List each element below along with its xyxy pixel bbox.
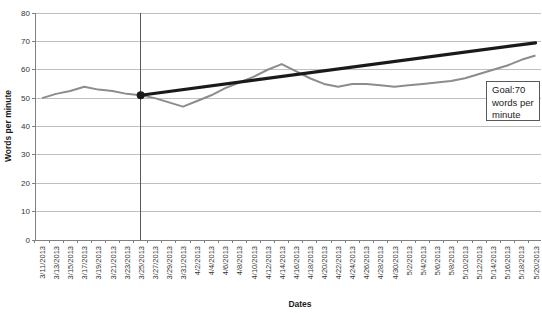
x-axis-tick-label: 3/27/2013 [151, 246, 160, 279]
x-axis-tick-label: 4/22/2013 [334, 246, 343, 279]
y-axis-tick-label: 10 [21, 207, 30, 216]
wpm-line-chart: 010203040506070803/11/20133/13/20133/15/… [0, 0, 542, 313]
x-axis-tick-label: 4/26/2013 [362, 246, 371, 279]
x-axis-tick-label: 3/13/2013 [52, 246, 61, 279]
x-axis-tick-label: 5/6/2013 [433, 246, 442, 275]
y-axis-tick-label: 60 [21, 65, 30, 74]
x-axis-tick-label: 5/2/2013 [405, 246, 414, 275]
x-axis-tick-label: 4/12/2013 [264, 246, 273, 279]
x-axis-tick-label: 4/20/2013 [320, 246, 329, 279]
x-axis-tick-label: 3/25/2013 [137, 246, 146, 279]
x-axis-tick-label: 3/17/2013 [80, 246, 89, 279]
x-axis-tick-label: 4/18/2013 [306, 246, 315, 279]
x-axis-tick-label: 4/14/2013 [278, 246, 287, 279]
y-axis-tick-label: 30 [21, 150, 30, 159]
plot-area: 010203040506070803/11/20133/13/20133/15/… [21, 9, 541, 280]
x-axis-tick-label: 3/19/2013 [94, 246, 103, 279]
x-axis-tick-label: 5/10/2013 [461, 246, 470, 279]
y-axis-tick-label: 50 [21, 94, 30, 103]
y-axis-tick-label: 80 [21, 9, 30, 18]
x-axis-title: Dates [288, 299, 311, 309]
x-axis-tick-label: 5/14/2013 [489, 246, 498, 279]
x-axis-tick-label: 4/4/2013 [207, 246, 216, 275]
x-axis-tick-label: 4/28/2013 [376, 246, 385, 279]
x-axis-tick-label: 4/2/2013 [193, 246, 202, 275]
x-axis-tick-label: 3/15/2013 [66, 246, 75, 279]
goal-annotation-line: Goal:70 [492, 84, 539, 97]
x-axis-tick-label: 5/8/2013 [447, 246, 456, 275]
x-axis-tick-label: 5/12/2013 [475, 246, 484, 279]
y-axis-tick-label: 70 [21, 37, 30, 46]
x-axis-tick-label: 4/30/2013 [391, 246, 400, 279]
y-axis-tick-label: 0 [26, 236, 31, 245]
chart-container: 010203040506070803/11/20133/13/20133/15/… [0, 0, 542, 313]
x-axis-tick-label: 4/8/2013 [235, 246, 244, 275]
x-axis-tick-label: 4/16/2013 [292, 246, 301, 279]
x-axis-tick-label: 3/21/2013 [109, 246, 118, 279]
x-axis-tick-label: 3/11/2013 [38, 246, 47, 279]
x-axis-tick-label: 4/24/2013 [348, 246, 357, 279]
x-axis-tick-label: 3/29/2013 [165, 246, 174, 279]
x-axis-tick-label: 4/10/2013 [250, 246, 259, 279]
x-axis-tick-label: 3/23/2013 [123, 246, 132, 279]
wpm-data-line [42, 56, 536, 107]
y-axis-title: Words per minute [3, 90, 13, 162]
goal-annotation: Goal:70 words per minute [486, 81, 540, 121]
y-axis-tick-label: 20 [21, 179, 30, 188]
x-axis-tick-label: 4/6/2013 [221, 246, 230, 275]
goal-start-marker [137, 91, 145, 99]
x-axis-tick-label: 5/4/2013 [419, 246, 428, 275]
y-axis-tick-label: 40 [21, 122, 30, 131]
goal-annotation-line: words per [492, 97, 539, 110]
goal-annotation-line: minute [492, 109, 539, 122]
x-axis-tick-label: 3/31/2013 [179, 246, 188, 279]
x-axis-tick-label: 5/18/2013 [517, 246, 526, 279]
x-axis-tick-label: 5/16/2013 [503, 246, 512, 279]
x-axis-tick-label: 5/20/2013 [532, 246, 541, 279]
